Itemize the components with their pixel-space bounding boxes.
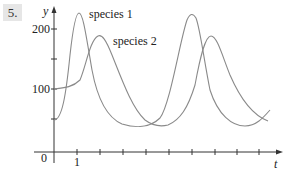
x-tick-label-1: 1 bbox=[74, 155, 80, 169]
y-axis-label: y bbox=[42, 4, 49, 18]
species-2-curve bbox=[54, 36, 268, 126]
y-tick-label-100: 100 bbox=[32, 82, 50, 96]
species-1-curve bbox=[54, 13, 270, 126]
population-chart: y t 200 100 0 1 species 1 species 2 bbox=[0, 0, 285, 172]
x-axis-arrow-icon bbox=[276, 150, 283, 155]
species-1-label: species 1 bbox=[89, 7, 133, 21]
y-axis-arrow-icon bbox=[52, 6, 57, 13]
y-tick-label-200: 200 bbox=[32, 22, 50, 36]
x-axis-label: t bbox=[274, 157, 278, 171]
origin-label: 0 bbox=[41, 151, 47, 165]
species-2-label: species 2 bbox=[113, 34, 157, 48]
